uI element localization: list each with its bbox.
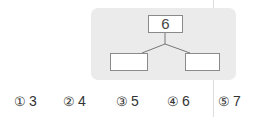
left-part-box[interactable] (110, 53, 148, 71)
choice-3[interactable]: ③5 (116, 93, 139, 109)
choice-2[interactable]: ②4 (63, 93, 86, 109)
choice-4[interactable]: ④6 (167, 93, 190, 109)
choice-5[interactable]: ⑤7 (218, 93, 241, 109)
whole-box: 6 (148, 15, 183, 33)
choice-1[interactable]: ①3 (14, 93, 37, 109)
right-part-box[interactable] (185, 53, 220, 71)
